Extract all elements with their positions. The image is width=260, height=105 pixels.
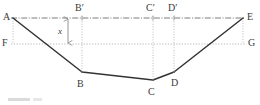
label-point-d: D: [171, 78, 178, 88]
label-point-d-prime: D′: [168, 3, 177, 13]
vertex-marker-B: [81, 71, 83, 73]
label-point-b: B: [77, 79, 84, 89]
label-point-b-prime: B′: [75, 3, 84, 13]
label-point-g: G: [248, 38, 255, 48]
vertical-guide-lines: [13, 16, 243, 80]
geometry-figure: A E F G B C D B′ C′ D′ x: [0, 0, 260, 105]
label-point-f: F: [2, 38, 8, 48]
label-point-c-prime: C′: [146, 3, 155, 13]
vertex-marker-D: [173, 71, 175, 73]
label-point-c: C: [148, 87, 155, 97]
label-point-e: E: [247, 12, 253, 22]
vertex-marker-C: [152, 79, 154, 81]
scan-artifact-left: [8, 98, 30, 101]
profile-polyline: [13, 18, 243, 80]
vertex-markers: [81, 71, 175, 81]
scan-artifact-left-2: [33, 98, 42, 101]
figure-canvas: [0, 0, 260, 105]
label-point-a: A: [3, 12, 10, 22]
label-dimension-x: x: [58, 27, 62, 36]
